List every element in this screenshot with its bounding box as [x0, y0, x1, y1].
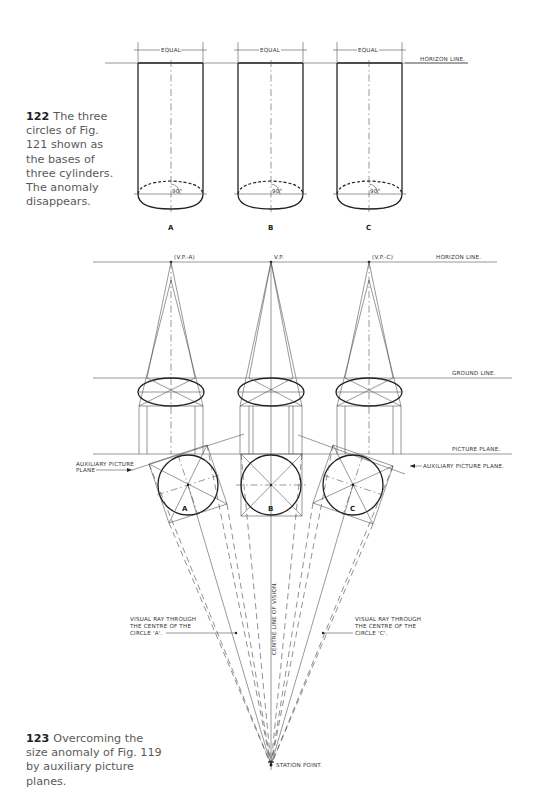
perspective-diagram: HORIZON LINE. EQUAL 90° A EQUAL: [0, 0, 540, 810]
ray-a-line-3: CIRCLE 'A'.: [130, 630, 162, 636]
aux-plane-right-label: AUXILIARY PICTURE PLANE.: [423, 463, 504, 469]
plan-circle-c: C: [313, 445, 393, 524]
ground-label: GROUND LINE.: [452, 370, 496, 376]
aux-picture-plane-left: [132, 434, 244, 470]
cylinder-b: EQUAL 90° B: [234, 42, 307, 232]
vp-c-label: (V.P.-C): [372, 254, 393, 260]
plan-circle-a: A: [149, 445, 227, 523]
vertical-projectors: [139, 406, 401, 454]
equal-label-c: EQUAL: [358, 47, 379, 53]
angle-label-b: 90°: [272, 188, 283, 194]
plan-circle-label-a: A: [182, 505, 188, 513]
plan-circle-label-b: B: [268, 505, 273, 513]
ray-c-line-1: VISUAL RAY THROUGH: [355, 616, 421, 622]
cylinder-label-c: C: [366, 224, 371, 232]
station-point-marker: [270, 764, 273, 767]
cylinder-a: EQUAL 90° A: [134, 42, 207, 232]
equal-label-b: EQUAL: [260, 47, 281, 53]
angle-label-c: 90°: [370, 188, 381, 194]
ray-a-line-1: VISUAL RAY THROUGH: [130, 616, 196, 622]
plan-circle-label-c: C: [350, 505, 355, 513]
ray-c-line-3: CIRCLE 'C'.: [355, 630, 387, 636]
centre-line-label: CENTRE LINE OF VISION.: [271, 582, 277, 655]
figure-123: HORIZON LINE. (V.P.-A) V.P. (V.P.-C) GRO…: [76, 254, 512, 770]
figure-122: HORIZON LINE. EQUAL 90° A EQUAL: [105, 42, 468, 232]
ray-a-line-2: THE CENTRE OF THE: [129, 623, 191, 629]
picture-plane-label: PICTURE PLANE.: [452, 446, 500, 452]
station-point-label: STATION POINT.: [276, 762, 322, 768]
cylinder-c: EQUAL 90° C: [333, 42, 406, 232]
ray-c-line-2: THE CENTRE OF THE: [354, 623, 416, 629]
horizon-label-bottom: HORIZON LINE.: [436, 254, 481, 260]
vp-label: V.P.: [274, 254, 284, 260]
equal-label-a: EQUAL: [161, 47, 182, 53]
vp-a-label: (V.P.-A): [174, 254, 195, 260]
converging-lines: [139, 262, 401, 406]
angle-label-a: 90°: [172, 188, 183, 194]
aux-plane-left-label-2: PLANE: [76, 467, 95, 473]
cylinder-label-a: A: [168, 224, 174, 232]
horizon-label-top: HORIZON LINE.: [420, 56, 465, 62]
cylinder-label-b: B: [268, 224, 273, 232]
